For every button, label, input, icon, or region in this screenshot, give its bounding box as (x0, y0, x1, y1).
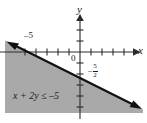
y-axis-label: y (77, 4, 82, 15)
inequality-label: x + 2y ≤ –5 (13, 91, 59, 101)
y-axis-arrowhead (76, 14, 84, 21)
y-intercept-fraction: 5 2 (93, 63, 98, 79)
y-intercept-minus-sign: – (88, 67, 92, 75)
y-intercept-denominator: 2 (93, 72, 98, 79)
linear-inequality-graph: y x 0 –5 – 5 2 x + 2y ≤ –5 (0, 0, 147, 123)
y-intercept-numerator: 5 (93, 63, 98, 70)
y-intercept-label: – 5 2 (88, 63, 98, 79)
origin-label: 0 (71, 54, 76, 63)
x-intercept-label: –5 (24, 31, 33, 40)
x-axis-label: x (138, 45, 143, 56)
